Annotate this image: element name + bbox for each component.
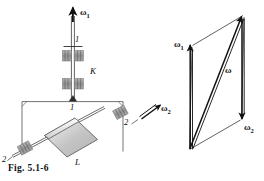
omega-2-vec-glyph: ω	[244, 122, 251, 132]
label-omega-2-vector: ω2	[244, 123, 254, 134]
bearing-lower	[63, 79, 84, 90]
label-axis-2-right: 2	[124, 118, 128, 127]
rotating-body-L	[45, 118, 98, 157]
label-omega-1-mechanism: ω1	[80, 8, 90, 19]
figure-graphics	[0, 0, 264, 181]
label-omega-1-vector: ω1	[174, 40, 184, 51]
label-axis-1-upper: 1	[75, 35, 79, 44]
omega-1-subscript: 1	[87, 12, 90, 19]
omega-2-subscript: 2	[168, 108, 171, 115]
side-origin-to-omega2	[190, 120, 241, 150]
omega-1-vec-glyph: ω	[174, 39, 181, 49]
vector-parallelogram-group	[190, 16, 245, 150]
label-omega-resultant: ω	[225, 66, 232, 77]
mechanism-group	[8, 8, 161, 161]
figure-caption: Fig. 5.1-6	[8, 163, 49, 173]
omega-2-vec-subscript: 2	[251, 127, 254, 134]
omega-2-arrow	[140, 104, 161, 119]
vector-omega-resultant	[190, 17, 244, 150]
label-housing-K: K	[90, 67, 96, 76]
bearing-axis2-left	[17, 141, 33, 155]
axis2-left-leader	[8, 157, 13, 161]
label-body-L: L	[75, 158, 80, 167]
omega-1-vec-subscript: 1	[181, 44, 184, 51]
omega-2-glyph: ω	[161, 103, 168, 113]
frame-pivot-triangle	[69, 96, 77, 102]
label-omega-2-mechanism: ω2	[161, 104, 171, 115]
omega-resultant-glyph: ω	[225, 65, 232, 75]
figure-container: ω1 1 K 1 2 2 ω2 L ω1 ω ω2 Fig. 5.1-6	[0, 0, 264, 181]
label-axis-2-left: 2	[2, 155, 6, 164]
bearing-upper	[63, 51, 84, 62]
label-axis-1-lower: 1	[70, 103, 74, 112]
omega-2-leader	[132, 120, 139, 125]
omega-1-glyph: ω	[80, 7, 87, 17]
